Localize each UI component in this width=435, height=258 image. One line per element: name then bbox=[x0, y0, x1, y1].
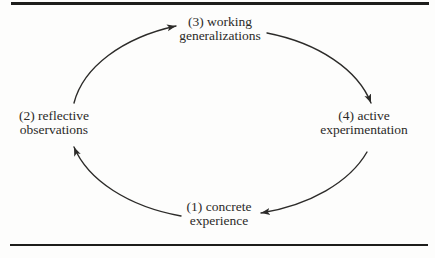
node-label-line: (3) working bbox=[179, 15, 261, 29]
node-label-line: experimentation bbox=[320, 123, 408, 137]
node-label-line: experience bbox=[187, 214, 252, 228]
arrow-concrete-to-reflective bbox=[74, 147, 181, 216]
arrow-active-to-concrete bbox=[261, 152, 367, 213]
node-label-line: observations bbox=[19, 123, 89, 137]
node-label-line: (1) concrete bbox=[187, 200, 252, 214]
node-reflective-observations: (2) reflective observations bbox=[19, 109, 89, 137]
node-working-generalizations: (3) working generalizations bbox=[179, 15, 261, 43]
node-label-line: (2) reflective bbox=[19, 109, 89, 123]
bottom-rule bbox=[10, 244, 428, 246]
node-concrete-experience: (1) concrete experience bbox=[187, 200, 252, 228]
arrow-working-to-active bbox=[267, 33, 371, 103]
node-label-line: (4) active bbox=[320, 109, 408, 123]
node-active-experimentation: (4) active experimentation bbox=[320, 109, 408, 137]
arrow-reflective-to-working bbox=[74, 26, 176, 103]
node-label-line: generalizations bbox=[179, 29, 261, 43]
learning-cycle-figure: (3) working generalizations (2) reflecti… bbox=[0, 0, 435, 258]
